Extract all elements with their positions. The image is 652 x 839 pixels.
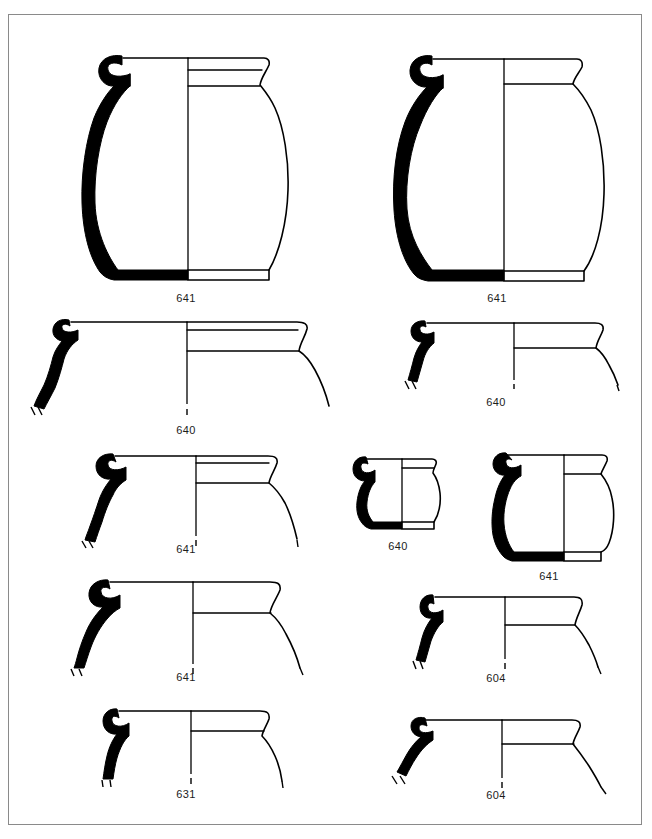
break-tick-b-4 bbox=[412, 381, 416, 389]
base-line-right-6 bbox=[402, 522, 434, 529]
break-tick-right-5 bbox=[297, 540, 298, 547]
figure-caption-4: 640 bbox=[486, 396, 506, 408]
section-fill-1 bbox=[82, 56, 188, 281]
figure-caption-2: 641 bbox=[487, 292, 507, 304]
figure-caption-9: 604 bbox=[486, 672, 506, 684]
break-tick-a-8 bbox=[71, 669, 74, 676]
outer-profile-right-1 bbox=[188, 58, 288, 270]
break-tick-a-10 bbox=[102, 780, 103, 787]
outer-profile-right-7 bbox=[564, 455, 614, 552]
outer-profile-right-11 bbox=[502, 720, 601, 787]
break-tick-right-11 bbox=[601, 787, 606, 794]
section-fill-10 bbox=[103, 709, 129, 779]
base-line-right-1 bbox=[188, 270, 269, 280]
break-tick-b-9 bbox=[420, 661, 423, 669]
vessel-figure-9 bbox=[404, 592, 614, 682]
figure-caption-8: 641 bbox=[176, 671, 196, 683]
outer-profile-right-5 bbox=[196, 456, 297, 539]
figure-caption-7: 641 bbox=[539, 570, 559, 582]
figure-caption-11: 604 bbox=[486, 789, 506, 801]
break-tick-a-9 bbox=[413, 661, 416, 669]
break-tick-right-8 bbox=[300, 668, 303, 675]
break-tick-a-3 bbox=[31, 407, 35, 415]
figure-caption-1: 641 bbox=[176, 292, 196, 304]
vessel-figure-10 bbox=[88, 706, 308, 796]
outer-profile-right-10 bbox=[191, 711, 282, 781]
vessel-drawing-10 bbox=[88, 706, 308, 796]
break-tick-b-10 bbox=[110, 780, 111, 787]
outer-profile-right-8 bbox=[193, 582, 300, 668]
figure-caption-5: 641 bbox=[176, 543, 196, 555]
section-fill-8 bbox=[74, 580, 120, 668]
section-fill-6 bbox=[353, 457, 402, 529]
break-tick-right-9 bbox=[598, 667, 601, 674]
vessel-figure-8 bbox=[58, 578, 338, 678]
vessel-drawing-2 bbox=[378, 48, 628, 288]
vessel-figure-5 bbox=[68, 452, 328, 552]
section-fill-2 bbox=[393, 56, 504, 281]
vessel-drawing-8 bbox=[58, 578, 338, 678]
vessel-figure-4 bbox=[396, 318, 626, 398]
section-fill-9 bbox=[416, 595, 443, 662]
figure-caption-10: 631 bbox=[176, 788, 196, 800]
vessel-figure-7 bbox=[482, 450, 622, 570]
break-tick-right-10 bbox=[282, 781, 283, 788]
section-fill-4 bbox=[408, 321, 434, 382]
figure-caption-3: 640 bbox=[176, 424, 196, 436]
section-fill-11 bbox=[397, 717, 433, 776]
break-tick-a-5 bbox=[82, 541, 86, 548]
base-line-right-2 bbox=[504, 271, 584, 281]
vessel-drawing-1 bbox=[66, 48, 316, 288]
vessel-figure-6 bbox=[348, 452, 458, 542]
vessel-drawing-6 bbox=[348, 452, 458, 542]
section-fill-3 bbox=[34, 319, 78, 409]
vessel-figure-2 bbox=[378, 48, 628, 288]
figure-caption-6: 640 bbox=[388, 540, 408, 552]
vessel-drawing-3 bbox=[22, 318, 352, 418]
section-fill-7 bbox=[492, 453, 564, 561]
vessel-drawing-9 bbox=[404, 592, 614, 682]
break-tick-right-4 bbox=[617, 385, 619, 391]
outer-profile-right-2 bbox=[504, 59, 604, 271]
break-tick-b-11 bbox=[400, 776, 405, 784]
break-tick-b-8 bbox=[79, 669, 82, 676]
section-fill-5 bbox=[85, 454, 126, 542]
vessel-drawing-4 bbox=[396, 318, 626, 398]
vessel-drawing-7 bbox=[482, 450, 622, 570]
outer-profile-right-3 bbox=[187, 322, 329, 406]
break-tick-a-11 bbox=[392, 776, 397, 784]
break-tick-a-4 bbox=[405, 381, 409, 389]
outer-profile-right-9 bbox=[505, 597, 598, 667]
vessel-figure-1 bbox=[66, 48, 316, 288]
vessel-figure-3 bbox=[22, 318, 352, 418]
outer-profile-right-4 bbox=[514, 323, 618, 385]
pottery-plate: 641 641 640 bbox=[0, 0, 652, 839]
vessel-drawing-5 bbox=[68, 452, 328, 552]
base-line-right-7 bbox=[564, 552, 601, 561]
break-tick-b-5 bbox=[89, 541, 93, 548]
